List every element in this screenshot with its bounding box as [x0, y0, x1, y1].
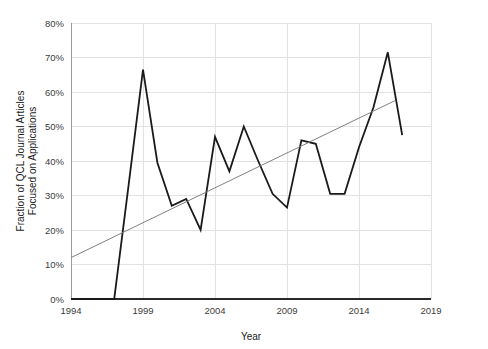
trendline	[71, 101, 395, 258]
y-tick-label: 60%	[45, 87, 65, 98]
x-tick-label: 2014	[348, 305, 369, 316]
y-tick-label: 10%	[45, 259, 65, 270]
x-axis-title: Year	[241, 331, 262, 342]
x-tick-label: 1994	[60, 305, 81, 316]
gridlines	[71, 23, 431, 299]
y-tick-label: 30%	[45, 190, 65, 201]
y-tick-label: 20%	[45, 225, 65, 236]
y-axis-tick-labels: 0%10%20%30%40%50%60%70%80%	[45, 18, 65, 305]
y-tick-label: 70%	[45, 52, 65, 63]
y-axis-title-line-2: Focused on Applications	[27, 107, 38, 215]
x-tick-label: 2009	[276, 305, 297, 316]
y-tick-label: 80%	[45, 18, 65, 29]
x-axis-tick-labels: 199419992004200920142019	[60, 305, 441, 316]
y-tick-label: 40%	[45, 156, 65, 167]
chart-container: 0%10%20%30%40%50%60%70%80% 1994199920042…	[0, 0, 488, 349]
x-tick-label: 2019	[420, 305, 441, 316]
data-line-qcl-applications	[71, 52, 402, 299]
y-tick-label: 0%	[50, 294, 64, 305]
y-tick-label: 50%	[45, 121, 65, 132]
data-series-layer	[71, 52, 402, 299]
line-chart: 0%10%20%30%40%50%60%70%80% 1994199920042…	[0, 0, 488, 349]
x-tick-label: 1999	[132, 305, 153, 316]
x-tick-label: 2004	[204, 305, 225, 316]
y-axis-title-line-1: Fraction of QCL Journal Articles	[15, 91, 26, 232]
